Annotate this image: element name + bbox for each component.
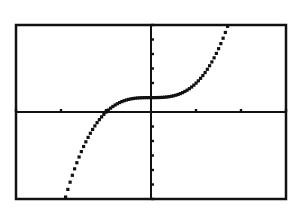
- x-tick: [15, 109, 17, 112]
- y-tick: [151, 24, 154, 26]
- y-tick: [151, 125, 154, 127]
- y-tick: [151, 67, 154, 69]
- y-tick: [151, 53, 154, 55]
- x-tick: [60, 109, 62, 112]
- y-tick: [151, 198, 154, 200]
- x-tick: [240, 109, 242, 112]
- y-tick: [151, 38, 154, 40]
- y-tick: [151, 183, 154, 185]
- x-tick: [195, 109, 197, 112]
- calculator-graph-screen: [0, 0, 290, 212]
- y-tick: [151, 82, 154, 84]
- y-tick: [151, 169, 154, 171]
- y-tick: [151, 154, 154, 156]
- y-tick: [151, 140, 154, 142]
- x-tick: [285, 109, 287, 112]
